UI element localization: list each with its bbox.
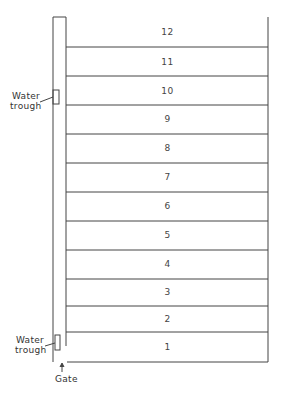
paddock-label-2: 2 — [67, 314, 268, 324]
paddock-label-1: 1 — [67, 342, 268, 352]
paddock-label-12: 12 — [67, 27, 268, 37]
paddock-label-6: 6 — [67, 201, 268, 211]
lane-outline — [53, 17, 66, 362]
paddock-label-4: 4 — [67, 259, 268, 269]
paddock-label-7: 7 — [67, 172, 268, 182]
water-trough-top-leader — [40, 97, 53, 102]
water-trough-top-label-line2: trough — [10, 101, 41, 111]
paddock-label-10: 10 — [67, 86, 268, 96]
water-trough-top-icon — [53, 90, 59, 104]
water-trough-bottom-label-line2: trough — [15, 345, 46, 355]
water-trough-bottom-icon — [55, 335, 60, 350]
water-trough-bottom-label-line1: Water — [16, 335, 44, 345]
paddock-label-11: 11 — [67, 57, 268, 67]
gate-label: Gate — [55, 374, 78, 384]
paddock-label-3: 3 — [67, 287, 268, 297]
gate-arrowhead-icon — [60, 363, 64, 367]
paddock-label-8: 8 — [67, 143, 268, 153]
paddock-label-5: 5 — [67, 230, 268, 240]
paddock-label-9: 9 — [67, 114, 268, 124]
paddock-diagram: 12 11 10 9 8 7 6 5 4 3 2 1 Water trough … — [0, 0, 286, 395]
water-trough-top-label-line1: Water — [12, 91, 40, 101]
